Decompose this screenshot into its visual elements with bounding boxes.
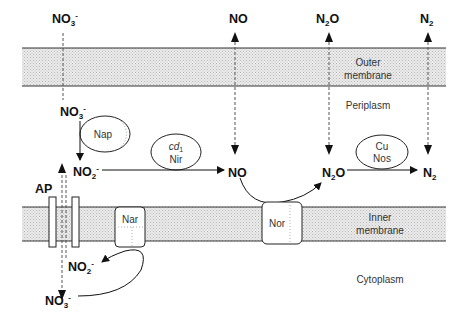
cytoplasm-label: Cytoplasm (356, 274, 403, 285)
cytoplasm-no2: NO2- (68, 259, 94, 276)
periplasm-n2: N2 (423, 166, 437, 182)
external-no: NO (229, 12, 248, 26)
nos-label-2: Nos (373, 153, 391, 164)
nap-label: Nap (94, 129, 113, 140)
ap-label: AP (35, 182, 52, 196)
nar-enzyme (115, 207, 145, 247)
inner-membrane-label-2: membrane (356, 225, 404, 236)
external-n2o: N2O (316, 12, 339, 28)
external-no3: NO3- (52, 11, 78, 28)
external-n2: N2 (420, 12, 434, 28)
nir-label-2: Nir (170, 154, 183, 165)
outer-membrane-label-1: Outer (355, 57, 381, 68)
periplasm-no3: NO3- (60, 104, 86, 121)
periplasm-no: NO (228, 166, 247, 180)
cytoplasm-no3: NO3- (45, 293, 71, 310)
periplasm-no2: NO2- (73, 164, 99, 181)
denitrification-diagram: Outer membrane Periplasm Inner membrane … (0, 0, 460, 321)
inner-membrane-label-1: Inner (369, 212, 392, 223)
periplasm-n2o: N2O (322, 166, 345, 182)
nor-reaction-arrow (240, 178, 321, 203)
outer-membrane-label-2: membrane (344, 70, 392, 81)
nar-label: Nar (122, 214, 139, 225)
nor-label: Nor (269, 218, 286, 229)
periplasm-label: Periplasm (346, 100, 390, 111)
nos-label-1: Cu (376, 141, 389, 152)
